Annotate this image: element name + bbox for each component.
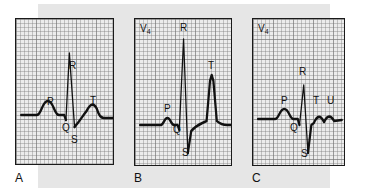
panel-letter-a: A: [15, 172, 23, 184]
ecg-figure: P R Q S T A V4 R P Q S T B V4 R P Q S T: [0, 0, 372, 194]
wave-label-p: P: [47, 97, 54, 107]
panel-letter-b: B: [134, 172, 142, 184]
panel-letter-c: C: [252, 172, 261, 184]
lead-label-c-sub: 4: [265, 28, 269, 35]
wave-label-r: R: [69, 61, 76, 71]
wave-label-p: P: [164, 104, 171, 114]
lead-label-b-letter: V: [140, 23, 147, 34]
wave-label-r: R: [180, 23, 187, 33]
wave-label-r: R: [299, 67, 306, 77]
ecg-trace-a: [16, 19, 114, 165]
wave-label-u: U: [327, 96, 334, 106]
ecg-panel-a: P R Q S T: [15, 18, 114, 165]
wave-label-q: Q: [173, 125, 181, 135]
lead-label-c: V4: [258, 24, 269, 34]
wave-label-s: S: [71, 135, 78, 145]
lead-label-c-letter: V: [258, 23, 265, 34]
lead-label-b: V4: [140, 24, 151, 34]
ecg-panel-b: V4 R P Q S T: [134, 18, 232, 166]
wave-label-q: Q: [62, 123, 70, 133]
ecg-trace-b: [135, 19, 232, 166]
ecg-trace-c: [253, 19, 345, 166]
wave-label-s: S: [182, 148, 189, 158]
wave-label-q: Q: [290, 123, 298, 133]
wave-label-t: T: [90, 96, 96, 106]
wave-label-t: T: [208, 61, 214, 71]
ecg-panel-c: V4 R P Q S T U: [252, 18, 345, 166]
wave-label-t: T: [313, 96, 319, 106]
wave-label-s: S: [301, 149, 308, 159]
wave-label-p: P: [281, 96, 288, 106]
lead-label-b-sub: 4: [147, 28, 151, 35]
